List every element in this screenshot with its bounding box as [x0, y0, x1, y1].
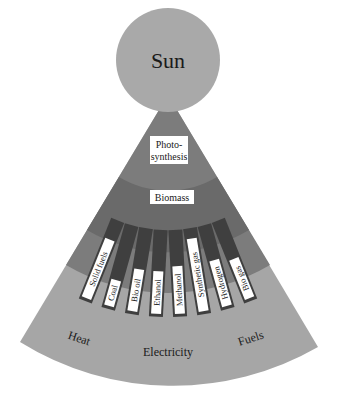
sun-label: Sun — [151, 48, 185, 73]
use-electricity: Electricity — [143, 345, 193, 359]
product-label: Ethanol — [152, 278, 163, 306]
biomass-label: Biomass — [155, 192, 190, 203]
product-label: Methanol — [173, 273, 185, 307]
biomass-energy-diagram: Solid fuelsCoalBio oilEthanolMethanolSyn… — [0, 0, 337, 402]
photosynthesis-label-line2: synthesis — [151, 151, 188, 162]
photosynthesis-label-line1: Photo- — [156, 139, 183, 150]
